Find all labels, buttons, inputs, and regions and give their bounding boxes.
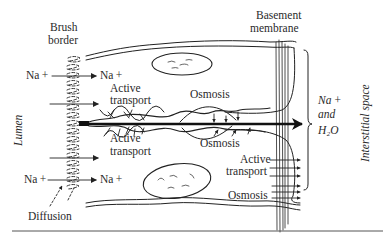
product-and-label: and [318, 108, 336, 120]
na-lumen-top: Na + [26, 69, 48, 81]
active-transport-mid-2: transport [110, 145, 152, 158]
active-transport-right-1: Active [240, 153, 271, 165]
na-lumen-bottom: Na + [24, 173, 46, 185]
product-h2o-label: H₂O [317, 124, 339, 136]
na-cell-top: Na + [100, 69, 122, 81]
epithelial-transport-diagram: Brush border Basement membrane Na + Na +… [0, 0, 385, 238]
lower-organelle [141, 159, 213, 202]
active-transport-top-2: transport [110, 94, 152, 107]
lumen-entry-arrows [48, 76, 98, 180]
diffusion-label: Diffusion [28, 210, 72, 222]
active-transport-mid-1: Active [110, 132, 141, 144]
osmosis-top-label: Osmosis [190, 88, 230, 100]
brush-border-label-2: border [48, 34, 78, 46]
output-brace [304, 50, 312, 190]
junction-block [79, 121, 89, 126]
basement-membrane-label-1: Basement [256, 9, 302, 21]
basement-membrane-label-2: membrane [250, 22, 299, 34]
active-transport-right-2: transport [226, 165, 268, 178]
osmosis-mid-label: Osmosis [200, 137, 240, 149]
na-cell-bottom: Na + [100, 173, 122, 185]
lower-cell-membrane [86, 198, 300, 210]
upper-organelle [152, 53, 212, 75]
interstitial-space-label: Interstitial space [359, 84, 372, 163]
product-na-label: Na + [317, 94, 341, 106]
osmosis-right-label: Osmosis [228, 189, 268, 201]
upper-cell-membrane [86, 41, 296, 60]
lumen-label: Lumen [12, 114, 24, 147]
brush-border-label-1: Brush [50, 21, 78, 33]
lateral-intercellular-space [225, 48, 300, 203]
active-transport-top-1: Active [110, 82, 141, 94]
